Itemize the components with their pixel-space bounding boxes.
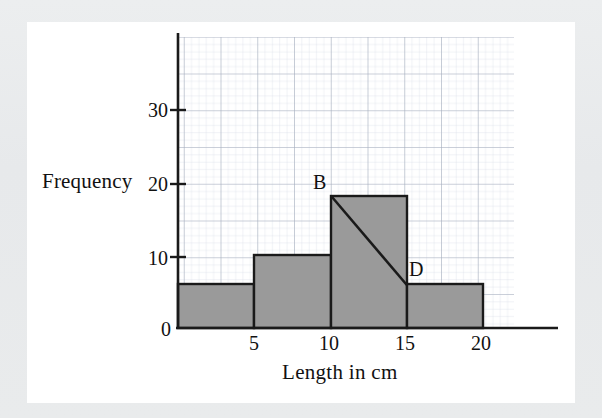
annotation-label-d: D [409, 258, 423, 281]
bar-0-5 [178, 284, 254, 328]
annotation-label-b: B [313, 171, 326, 194]
page-wrapper: Frequency Length in cm 0 10 20 30 5 10 1… [0, 0, 602, 418]
y-tick-label-30: 30 [148, 99, 168, 122]
x-tick-label-10: 10 [319, 332, 339, 355]
x-tick-label-5: 5 [249, 332, 259, 355]
y-axis-title: Frequency [42, 169, 132, 194]
chart-canvas [0, 0, 602, 418]
y-tick-label-20: 20 [148, 173, 168, 196]
x-axis-title: Length in cm [282, 360, 398, 385]
x-tick-label-20: 20 [471, 332, 491, 355]
bar-5-10 [254, 255, 331, 328]
y-tick-label-10: 10 [148, 247, 168, 270]
x-tick-label-15: 15 [395, 332, 415, 355]
bar-10-15 [331, 196, 407, 328]
histogram-figure: Frequency Length in cm 0 10 20 30 5 10 1… [0, 0, 602, 418]
bar-15-20 [407, 284, 483, 328]
y-tick-label-0: 0 [161, 318, 171, 341]
